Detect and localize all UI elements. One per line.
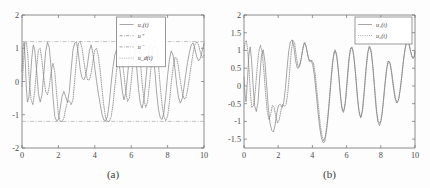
x-tick-label: 2 [56,151,60,160]
x-tick-label: 0 [20,151,24,160]
figure-container: 0246810-2-1012(a)u₁(t)u⁺u⁻u_d(t) 0246810… [0,0,430,188]
x-tick-label: 8 [379,151,383,160]
legend-label-2: u⁺ [138,33,145,39]
y-tick-label: 0 [15,78,19,87]
panel-caption: (a) [107,168,120,181]
x-tick-label: 4 [93,151,97,160]
y-tick-label: 2 [237,11,241,20]
y-tick-label: 1.5 [231,29,241,38]
x-tick-label: 0 [242,151,246,160]
y-tick-label: -2 [12,144,19,153]
series-curve-2 [244,41,415,141]
subplot-panel-a: 0246810-2-1012(a)u₁(t)u⁺u⁻u_d(t) [0,0,215,188]
y-tick-label: -0.5 [228,100,241,109]
y-tick-label: -1 [234,117,241,126]
x-tick-label: 6 [129,151,133,160]
y-tick-label: 0.5 [231,64,241,73]
y-tick-label: 2 [15,11,19,20]
subplot-panel-b: 0246810-1.5-1-0.500.511.52(b)u₁(t)u₂(t) [215,0,430,188]
x-tick-label: 8 [166,151,170,160]
x-tick-label: 2 [276,151,280,160]
x-tick-label: 10 [411,151,419,160]
panel-b-plot: 0246810-1.5-1-0.500.511.52(b)u₁(t)u₂(t) [215,0,430,188]
legend-label-1: u₁(t) [138,22,149,29]
legend-label-3: u⁻ [138,44,145,50]
x-tick-label: 6 [345,151,349,160]
y-tick-label: 0 [237,82,241,91]
panel-a-plot: 0246810-2-1012(a)u₁(t)u⁺u⁻u_d(t) [0,0,215,188]
panel-caption: (b) [323,168,336,181]
y-tick-label: 1 [237,46,241,55]
legend-label-4: u_d(t) [138,55,153,62]
y-tick-label: 1 [15,44,19,53]
x-tick-label: 4 [310,151,314,160]
legend-label-2: u₂(t) [376,33,387,40]
x-tick-label: 10 [200,151,208,160]
series-curve-1 [244,40,415,143]
series-curve-1 [22,42,204,120]
y-tick-label: -1 [12,111,19,120]
legend-label-1: u₁(t) [376,22,387,29]
y-tick-label: -1.5 [228,135,241,144]
